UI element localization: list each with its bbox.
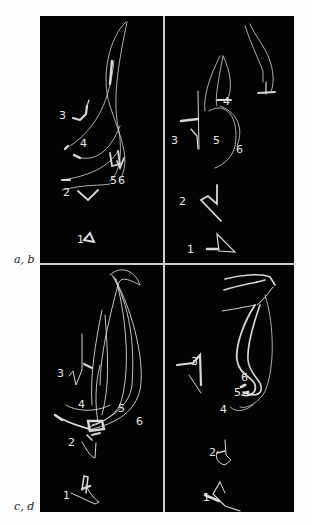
trace-label-1: 1 (77, 233, 84, 246)
horizontal-divider (40, 263, 294, 265)
panel-d: 3 6 5 4 2 1 (165, 265, 294, 512)
trace-label-2: 2 (179, 195, 186, 208)
trace-label-5: 5 (118, 402, 125, 415)
trace-label-1: 1 (203, 491, 210, 504)
trace-drawing-a: 3 4 5 6 2 1 (40, 16, 163, 263)
trace-label-2: 2 (68, 436, 75, 449)
trace-label-6: 6 (236, 143, 243, 156)
caption-bottom-pair: c, d (14, 500, 34, 513)
trace-label-6: 6 (136, 415, 143, 428)
trace-label-1: 1 (63, 489, 70, 502)
figure-grid: 3 4 5 6 2 1 (40, 16, 294, 512)
panel-a: 3 4 5 6 2 1 (40, 16, 163, 263)
trace-label-4: 4 (223, 95, 230, 108)
trace-label-4: 4 (78, 398, 85, 411)
trace-drawing-d: 3 6 5 4 2 1 (165, 265, 294, 512)
trace-label-5: 5 (234, 386, 241, 399)
trace-label-4: 4 (220, 403, 227, 416)
trace-label-3: 3 (171, 134, 178, 147)
trace-label-2: 2 (63, 186, 70, 199)
panel-c: 3 4 5 6 2 1 (40, 265, 163, 512)
trace-label-5: 5 (213, 134, 220, 147)
trace-drawing-c: 3 4 5 6 2 1 (40, 265, 163, 512)
trace-label-5: 5 (110, 174, 117, 187)
trace-label-6: 6 (118, 174, 125, 187)
trace-label-4: 4 (80, 137, 87, 150)
trace-label-3: 3 (191, 355, 198, 368)
caption-top-pair: a, b (14, 253, 35, 266)
trace-label-3: 3 (59, 109, 66, 122)
trace-label-1: 1 (187, 243, 194, 256)
trace-label-3: 3 (57, 367, 64, 380)
trace-label-6: 6 (241, 371, 248, 384)
trace-label-2: 2 (209, 446, 216, 459)
panel-b: 4 3 5 6 2 1 (165, 16, 294, 263)
trace-drawing-b: 4 3 5 6 2 1 (165, 16, 294, 263)
